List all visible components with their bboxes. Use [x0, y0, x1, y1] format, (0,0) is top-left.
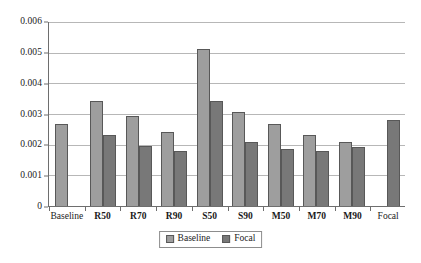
y-tick-label: 0	[37, 202, 42, 212]
bar-baseline	[90, 101, 103, 206]
bar-baseline	[55, 124, 68, 206]
y-tick-label: 0.001	[20, 171, 42, 181]
legend-entry-focal: Focal	[222, 234, 255, 244]
x-tick-column: Baseline	[49, 207, 85, 229]
bar-group	[192, 22, 228, 206]
bar-focal	[174, 151, 187, 207]
x-tick-column: S90	[228, 207, 264, 229]
x-tick-mark	[192, 207, 193, 211]
bar-group	[334, 22, 370, 206]
y-tick-label: 0.004	[20, 79, 42, 89]
legend-swatch-icon	[222, 235, 230, 243]
bar-baseline	[268, 124, 281, 206]
bar-group	[157, 22, 193, 206]
bar-focal	[316, 151, 329, 207]
x-tick-column: Focal	[370, 207, 406, 229]
x-tick-mark	[335, 207, 336, 211]
bar-chart: 0.006 0.005 0.004 0.003 0.002 0.001 0 Ba…	[0, 0, 421, 263]
x-tick-column: M70	[299, 207, 335, 229]
x-axis: BaselineR50R70R90S50S90M50M70M90Focal	[49, 207, 406, 229]
bar-group	[228, 22, 264, 206]
legend-swatch-icon	[166, 235, 174, 243]
x-tick-label: Focal	[378, 212, 399, 222]
x-tick-mark	[85, 207, 86, 211]
bar-baseline	[197, 49, 210, 206]
bar-group	[263, 22, 299, 206]
bar-group	[86, 22, 122, 206]
x-tick-mark	[228, 207, 229, 211]
x-tick-label: Baseline	[50, 212, 83, 222]
bar-baseline	[161, 132, 174, 206]
bar-group	[50, 22, 86, 206]
y-tick-label: 0.003	[20, 110, 42, 120]
y-tick-label: 0.002	[20, 141, 42, 151]
x-tick-column: R90	[156, 207, 192, 229]
x-tick-mark	[156, 207, 157, 211]
bar-groups	[50, 22, 405, 206]
x-tick-label: M70	[308, 212, 326, 222]
bar-group	[299, 22, 335, 206]
x-tick-column: R50	[85, 207, 121, 229]
bar-focal	[352, 147, 365, 206]
bar-focal	[139, 146, 152, 206]
bar-baseline	[339, 142, 352, 206]
bar-focal	[210, 101, 223, 206]
x-tick-label: S90	[238, 212, 253, 222]
x-tick-label: R70	[130, 212, 146, 222]
bar-group	[370, 22, 406, 206]
y-tick-label: 0.006	[20, 17, 42, 27]
y-tick-label: 0.005	[20, 48, 42, 58]
bar-focal	[245, 142, 258, 206]
x-tick-column: M90	[335, 207, 371, 229]
x-tick-mark	[370, 207, 371, 211]
bar-focal	[103, 135, 116, 206]
bar-focal	[387, 120, 400, 206]
x-tick-column: M50	[263, 207, 299, 229]
x-tick-mark	[263, 207, 264, 211]
x-tick-label: M90	[343, 212, 361, 222]
bar-baseline	[126, 116, 139, 206]
bar-focal	[281, 149, 294, 206]
y-axis: 0.006 0.005 0.004 0.003 0.002 0.001 0	[0, 22, 48, 207]
x-tick-label: R50	[94, 212, 110, 222]
legend-label: Baseline	[178, 234, 211, 244]
x-tick-label: M50	[272, 212, 290, 222]
x-tick-column: S50	[192, 207, 228, 229]
bar-group	[121, 22, 157, 206]
legend-entry-baseline: Baseline	[166, 234, 211, 244]
x-tick-mark	[299, 207, 300, 211]
x-tick-label: R90	[166, 212, 182, 222]
x-tick-mark	[120, 207, 121, 211]
x-tick-column: R70	[120, 207, 156, 229]
legend: Baseline Focal	[159, 231, 263, 248]
legend-label: Focal	[234, 234, 255, 244]
bar-baseline	[303, 135, 316, 206]
plot-area	[48, 22, 405, 207]
x-tick-label: S50	[202, 212, 217, 222]
bar-baseline	[232, 112, 245, 206]
